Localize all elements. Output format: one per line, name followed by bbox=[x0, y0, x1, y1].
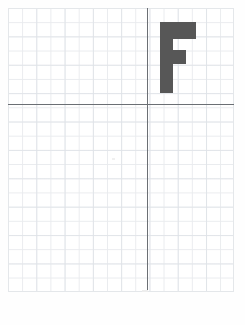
scan-speckle bbox=[112, 158, 115, 160]
worksheet-page bbox=[0, 0, 245, 325]
f-middle-bar bbox=[160, 50, 186, 64]
f-top-bar bbox=[160, 22, 196, 39]
scan-speckle bbox=[142, 290, 148, 292]
vertical-axis bbox=[147, 8, 148, 292]
horizontal-axis bbox=[8, 104, 234, 105]
graph-paper-grid bbox=[8, 8, 234, 292]
